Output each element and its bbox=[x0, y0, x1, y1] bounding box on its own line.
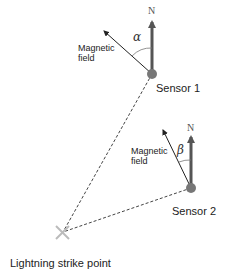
sensor2-label: Sensor 2 bbox=[172, 205, 216, 217]
sensor1-field-label: Magneticfield bbox=[78, 43, 115, 63]
sensor2-angle-label: β bbox=[177, 143, 184, 157]
sensor2-field-label: Magneticfield bbox=[131, 146, 168, 166]
strike-point-marker bbox=[56, 226, 69, 239]
sensor2-north-label: N bbox=[187, 122, 194, 133]
diagram-graphics bbox=[0, 0, 226, 277]
sensor1-angle-arc bbox=[132, 48, 152, 56]
sensor2-angle-arc bbox=[179, 160, 191, 162]
strike-point-label: Lightning strike point bbox=[10, 257, 111, 269]
lightning-direction-diagram: N α Magneticfield Sensor 1 N β Magneticf… bbox=[0, 0, 226, 277]
sensor1-dot bbox=[147, 69, 157, 79]
sensor1-angle-label: α bbox=[133, 30, 141, 44]
sensor1-north-label: N bbox=[148, 5, 155, 16]
sensor1-label: Sensor 1 bbox=[156, 82, 200, 94]
sensor2-dot bbox=[186, 183, 196, 193]
